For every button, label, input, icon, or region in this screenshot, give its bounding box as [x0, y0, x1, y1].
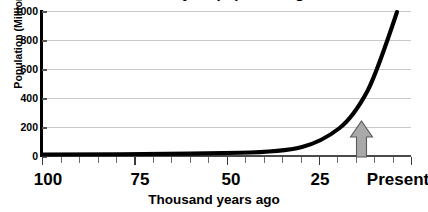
- x-tick-0: [411, 157, 412, 165]
- gridline-400: [42, 98, 411, 99]
- chart-title: 100 thousand year population growth: [0, 0, 428, 4]
- gridline-600: [42, 69, 411, 70]
- y-tick-800: [42, 40, 47, 42]
- x-tick-15: [356, 157, 357, 163]
- x-label-25: 25: [311, 170, 330, 190]
- x-tick-5: [393, 157, 394, 163]
- chart-canvas: 100 thousand year population growth Popu…: [0, 0, 428, 212]
- y-label-0: 0: [4, 150, 38, 162]
- x-tick-90: [79, 157, 80, 163]
- y-label-200: 200: [4, 121, 38, 133]
- x-tick-75: [134, 157, 135, 165]
- gridline-1000: [42, 11, 411, 12]
- x-tick-30: [301, 157, 302, 163]
- y-label-1000: 1000: [4, 5, 38, 17]
- x-label-50: 50: [222, 170, 241, 190]
- x-label-75: 75: [131, 170, 150, 190]
- y-tick-400: [42, 98, 47, 100]
- x-tick-45: [245, 157, 246, 163]
- x-tick-25: [319, 157, 320, 165]
- x-tick-60: [190, 157, 191, 163]
- x-tick-95: [61, 157, 62, 163]
- y-label-600: 600: [4, 63, 38, 75]
- x-tick-80: [116, 157, 117, 163]
- y-tick-1000: [42, 11, 47, 13]
- x-label-present: Present: [367, 170, 428, 190]
- x-tick-10: [374, 157, 375, 163]
- x-tick-50: [227, 157, 228, 165]
- x-tick-65: [171, 157, 172, 163]
- x-tick-85: [98, 157, 99, 163]
- y-tick-200: [42, 127, 47, 129]
- x-label-100: 100: [34, 170, 62, 190]
- y-tick-600: [42, 69, 47, 71]
- x-axis-title: Thousand years ago: [0, 192, 428, 207]
- y-axis-labels: 1000 800 600 400 200 0: [0, 0, 38, 212]
- x-tick-55: [208, 157, 209, 163]
- x-tick-40: [264, 157, 265, 163]
- x-tick-35: [282, 157, 283, 163]
- y-axis-line: [40, 10, 43, 157]
- x-tick-70: [153, 157, 154, 163]
- x-tick-20: [337, 157, 338, 163]
- y-label-400: 400: [4, 92, 38, 104]
- gridline-200: [42, 127, 411, 128]
- gridline-800: [42, 40, 411, 41]
- y-label-800: 800: [4, 34, 38, 46]
- x-tick-100: [42, 157, 43, 165]
- plot-area: [42, 11, 411, 156]
